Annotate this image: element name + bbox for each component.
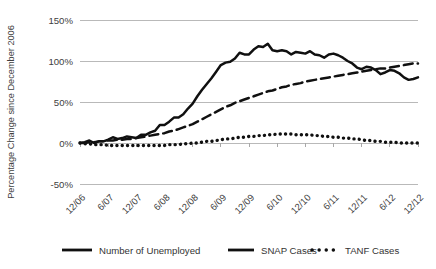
y-axis-tick-label: 100% <box>48 56 73 67</box>
x-axis-tick-label: 12/09 <box>232 192 256 216</box>
y-axis-tick-label: 150% <box>48 15 73 26</box>
x-axis-tick-label: 12/12 <box>401 192 425 216</box>
series-line-number-of-unemployed <box>80 44 418 143</box>
x-axis-tick-label: 6/12 <box>377 192 398 213</box>
gridlines <box>80 20 418 184</box>
series-line-snap-cases <box>80 63 418 143</box>
x-axis-tick-label: 12/06 <box>63 192 87 216</box>
x-axis-tick-label: 12/08 <box>176 192 200 216</box>
x-axis-tick-label: 6/07 <box>95 192 116 213</box>
x-axis-tick-label: 6/11 <box>321 192 341 212</box>
legend-label-snap-cases: SNAP Cases <box>261 245 317 256</box>
line-chart: Percentage Change since December 2006 -5… <box>0 0 436 269</box>
x-axis-tick-label: 12/11 <box>345 192 369 216</box>
x-axis-tick-label: 12/10 <box>288 192 312 216</box>
y-axis-tick-label: 0% <box>59 138 73 149</box>
x-axis-tick-label: 6/08 <box>151 192 172 213</box>
chart-legend: Number of UnemployedSNAP CasesTANF Cases <box>62 245 399 256</box>
y-axis-tick-label: -50% <box>51 179 74 190</box>
x-axis-tick-marks <box>80 143 418 147</box>
chart-container: Percentage Change since December 2006 -5… <box>0 0 436 269</box>
legend-label-number-of-unemployed: Number of Unemployed <box>99 245 200 256</box>
legend-label-tanf-cases: TANF Cases <box>345 245 399 256</box>
x-axis-tick-labels: 12/066/0712/076/0812/086/0912/096/1012/1… <box>63 192 425 216</box>
x-axis-tick-label: 6/09 <box>208 192 229 213</box>
y-axis-tick-labels: -50%0%50%100%150% <box>48 15 73 190</box>
y-axis-title: Percentage Change since December 2006 <box>6 25 16 199</box>
x-axis-tick-label: 12/07 <box>119 192 143 216</box>
data-series-group <box>80 44 418 146</box>
x-axis-tick-label: 6/10 <box>264 192 285 213</box>
y-axis-tick-label: 50% <box>54 97 74 108</box>
